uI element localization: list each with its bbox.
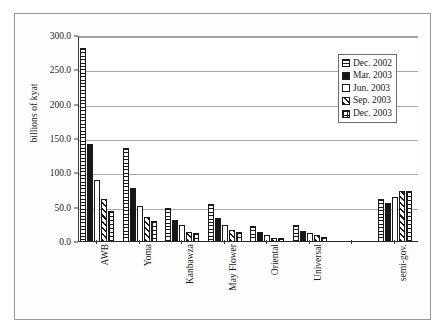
legend-item[interactable]: Dec. 2003 xyxy=(342,107,392,120)
legend-item-label: Dec. 2002 xyxy=(353,59,392,69)
x-axis-tick-mark xyxy=(224,240,225,244)
bar[interactable] xyxy=(392,197,398,242)
x-axis-tick-mark xyxy=(181,240,182,244)
bar-group xyxy=(208,37,242,242)
x-axis-category-label: May Flower xyxy=(228,244,238,291)
legend-swatch-icon xyxy=(342,110,350,118)
bar[interactable] xyxy=(215,218,221,242)
x-axis-tick-mark xyxy=(266,240,267,244)
x-axis-category-label: Yoma xyxy=(143,244,153,266)
bar-group xyxy=(293,37,327,242)
bar-group xyxy=(80,37,114,242)
y-axis-tick-label: 150.0 xyxy=(50,134,71,144)
legend-swatch-icon xyxy=(342,84,350,92)
bar[interactable] xyxy=(399,191,405,242)
x-axis-category-labels: AWBYomaKanbawzaMay FlowerOrientalUnivers… xyxy=(78,244,418,316)
bar[interactable] xyxy=(151,221,157,242)
y-axis-tick-label: 50.0 xyxy=(54,203,71,213)
legend-item[interactable]: Dec. 2002 xyxy=(342,57,392,70)
bar[interactable] xyxy=(137,206,143,242)
legend-item[interactable]: Sep. 2003 xyxy=(342,95,392,108)
bar[interactable] xyxy=(94,180,100,242)
x-axis-category-label: Universal xyxy=(313,244,323,281)
x-axis-tick-mark xyxy=(139,240,140,244)
legend-swatch-icon xyxy=(342,59,350,67)
bar[interactable] xyxy=(87,144,93,242)
x-axis-tick-mark xyxy=(394,240,395,244)
legend-item-label: Sep. 2003 xyxy=(353,96,391,106)
bar[interactable] xyxy=(208,204,214,242)
bar-group xyxy=(250,37,284,242)
x-axis-category-label: Oriental xyxy=(270,244,280,275)
bar[interactable] xyxy=(144,217,150,242)
x-axis-category-label: Kanbawza xyxy=(185,244,195,284)
bar[interactable] xyxy=(293,225,299,242)
x-axis-tick-mark xyxy=(351,240,352,244)
y-axis-tick-label: 0.0 xyxy=(59,237,71,247)
bar[interactable] xyxy=(108,211,114,242)
chart-legend: Dec. 2002Mar. 2003Jun. 2003Sep. 2003Dec.… xyxy=(338,54,397,123)
x-axis-line xyxy=(79,241,418,242)
bar[interactable] xyxy=(165,208,171,242)
x-axis-tick-mark xyxy=(96,240,97,244)
y-axis-tick-label: 100.0 xyxy=(50,168,71,178)
legend-swatch-icon xyxy=(342,72,350,80)
bar-chart-figure: billions of kyat 0.050.0100.0150.0200.02… xyxy=(0,0,445,333)
bar[interactable] xyxy=(130,188,136,242)
y-axis-tick-label: 200.0 xyxy=(50,100,71,110)
legend-item[interactable]: Jun. 2003 xyxy=(342,82,392,95)
y-axis-tick-labels: 0.050.0100.0150.0200.0250.0300.0 xyxy=(30,36,74,242)
bar[interactable] xyxy=(385,203,391,242)
bar[interactable] xyxy=(123,148,129,242)
legend-item-label: Jun. 2003 xyxy=(353,84,390,94)
x-axis-tick-mark xyxy=(309,240,310,244)
bar[interactable] xyxy=(172,220,178,242)
bar-group xyxy=(123,37,157,242)
legend-item-label: Dec. 2003 xyxy=(353,109,392,119)
bar[interactable] xyxy=(378,199,384,242)
bar[interactable] xyxy=(406,191,412,243)
bar-group xyxy=(165,37,199,242)
legend-item-label: Mar. 2003 xyxy=(353,71,392,81)
bar[interactable] xyxy=(101,199,107,242)
bar[interactable] xyxy=(80,48,86,242)
y-axis-tick-label: 300.0 xyxy=(50,31,71,41)
x-axis-category-label: semi-gov. xyxy=(398,244,408,281)
y-axis-tick-label: 250.0 xyxy=(50,65,71,75)
x-axis-category-label: AWB xyxy=(100,244,110,265)
legend-swatch-icon xyxy=(342,97,350,105)
legend-item[interactable]: Mar. 2003 xyxy=(342,70,392,83)
